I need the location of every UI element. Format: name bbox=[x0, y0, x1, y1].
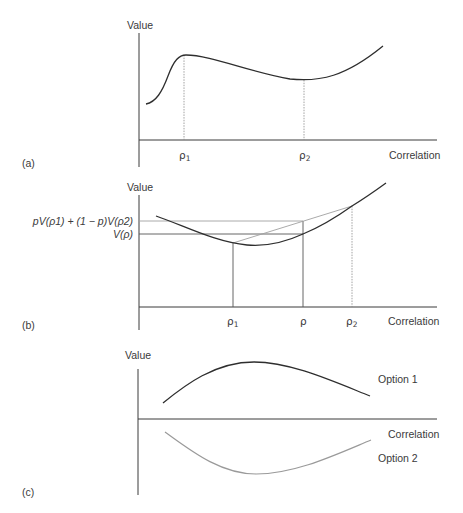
panel-b: Value pV(ρ1) + (1 − p)V(ρ2) V(ρ) ρ1 ρ ρ2… bbox=[22, 181, 440, 331]
panel-b-v-rho-label: V(ρ) bbox=[113, 228, 133, 240]
panel-b-x-axis-label: Correlation bbox=[388, 315, 440, 327]
panel-b-tick-rho: ρ bbox=[300, 315, 307, 327]
panel-c-option-2-label: Option 2 bbox=[378, 452, 418, 464]
panel-a-tick-rho1: ρ1 bbox=[179, 149, 191, 163]
panel-a-tick-rho2: ρ2 bbox=[299, 149, 311, 163]
panel-c-option-1-label: Option 1 bbox=[378, 373, 418, 385]
panel-a-x-axis-label: Correlation bbox=[389, 149, 441, 161]
panel-b-chord-line bbox=[233, 206, 352, 243]
panel-b-tag: (b) bbox=[22, 319, 35, 331]
panel-b-y-axis-label: Value bbox=[127, 181, 153, 193]
panel-a-value-curve bbox=[146, 46, 383, 104]
panel-c-y-axis-label: Value bbox=[125, 349, 151, 361]
panel-a-y-axis-label: Value bbox=[127, 19, 153, 31]
panel-b-tick-rho1: ρ1 bbox=[227, 315, 239, 329]
panel-c-option-2-curve bbox=[165, 432, 371, 474]
panel-a: Value ρ1 ρ2 Correlation (a) bbox=[22, 19, 441, 169]
panel-c: Value Option 1 Correlation Option 2 (c) bbox=[22, 349, 440, 498]
panel-a-tag: (a) bbox=[22, 157, 35, 169]
panel-c-option-1-curve bbox=[163, 362, 370, 403]
panel-b-convex-curve bbox=[156, 183, 386, 245]
panel-c-x-axis-label: Correlation bbox=[388, 428, 440, 440]
panel-b-weighted-average-label: pV(ρ1) + (1 − p)V(ρ2) bbox=[32, 215, 133, 227]
panel-c-tag: (c) bbox=[22, 486, 34, 498]
panel-b-tick-rho2: ρ2 bbox=[346, 315, 358, 329]
figure-canvas: Value ρ1 ρ2 Correlation (a) Value pV(ρ1 bbox=[0, 0, 463, 513]
